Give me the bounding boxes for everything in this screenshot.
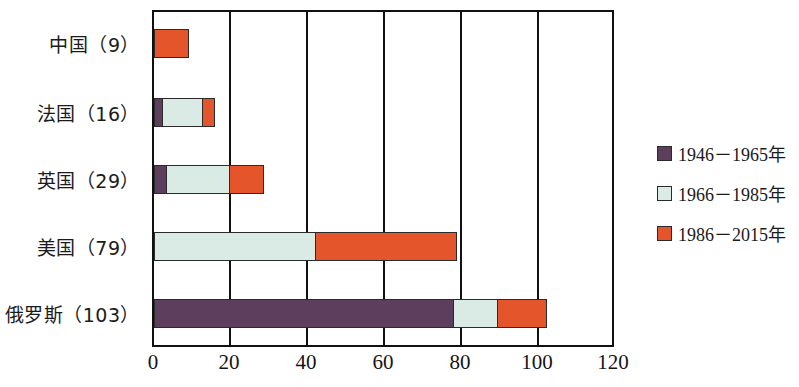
plot-area: [152, 10, 614, 347]
x-tick-120: 120: [597, 350, 629, 375]
category-label-usa: 美国（79）: [37, 239, 140, 258]
bar-uk: [154, 165, 264, 194]
legend-item-1986-2015: 1986－2015年: [657, 224, 797, 242]
legend-label-1946-1965: 1946－1965年: [678, 140, 786, 166]
legend-label-1986-2015: 1986－2015年: [678, 220, 786, 246]
category-label-france: 法国（16）: [37, 105, 140, 124]
gridline-100: [537, 12, 539, 345]
category-label-russia: 俄罗斯（103）: [5, 306, 140, 325]
legend-swatch-1946-1965: [657, 146, 672, 161]
category-label-china: 中国（9）: [49, 36, 140, 55]
legend-swatch-1986-2015: [657, 226, 672, 241]
legend-label-1966-1985: 1966－1985年: [678, 180, 786, 206]
category-label-uk: 英国（29）: [37, 172, 140, 191]
bar-segment-uk-1966-1985: [166, 165, 231, 194]
category-axis-labels: 中国（9） 法国（16） 英国（29） 美国（79） 俄罗斯（103）: [0, 0, 146, 387]
bar-russia: [154, 299, 547, 328]
gridline-60: [383, 12, 385, 345]
bar-usa: [154, 232, 457, 261]
legend-swatch-1966-1985: [657, 186, 672, 201]
legend-item-1946-1965: 1946－1965年: [657, 144, 797, 162]
bar-segment-france-1986-2015: [202, 98, 215, 127]
x-tick-60: 60: [373, 350, 394, 375]
x-tick-80: 80: [450, 350, 471, 375]
bar-segment-uk-1986-2015: [229, 165, 264, 194]
bar-segment-china-1986-2015: [154, 29, 189, 58]
bar-segment-russia-1946-1965: [154, 299, 454, 328]
bar-france: [154, 98, 215, 127]
x-tick-40: 40: [296, 350, 317, 375]
bar-segment-usa-1966-1985: [154, 232, 316, 261]
stacked-bar-chart: 中国（9） 法国（16） 英国（29） 美国（79） 俄罗斯（103）: [0, 0, 799, 387]
bar-segment-russia-1986-2015: [497, 299, 547, 328]
bar-segment-usa-1986-2015: [315, 232, 457, 261]
x-axis-tick-labels: 0 20 40 60 80 100 120: [152, 350, 614, 384]
x-tick-0: 0: [148, 350, 159, 375]
bar-segment-france-1966-1985: [162, 98, 204, 127]
bar-china: [154, 29, 189, 58]
gridline-80: [460, 12, 462, 345]
x-tick-100: 100: [521, 350, 553, 375]
x-tick-20: 20: [219, 350, 240, 375]
chart-legend: 1946－1965年 1966－1985年 1986－2015年: [657, 144, 797, 264]
gridline-40: [306, 12, 308, 345]
legend-item-1966-1985: 1966－1985年: [657, 184, 797, 202]
bar-segment-russia-1966-1985: [453, 299, 499, 328]
